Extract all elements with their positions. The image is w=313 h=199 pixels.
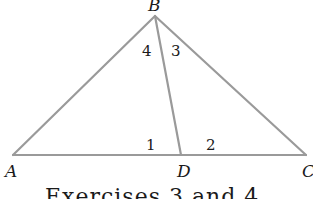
point-label-a: A — [5, 163, 17, 180]
point-label-c: C — [302, 163, 313, 180]
angle-label-4: 4 — [142, 44, 152, 59]
triangle-diagram — [0, 0, 313, 199]
angle-label-3: 3 — [171, 44, 181, 59]
figure-caption: Exercises 3 and 4 — [45, 184, 259, 199]
angle-label-2: 2 — [206, 138, 216, 153]
point-label-b: B — [148, 0, 161, 14]
angle-label-1: 1 — [146, 138, 156, 153]
point-label-d: D — [177, 163, 191, 180]
segment-ab — [13, 16, 155, 155]
